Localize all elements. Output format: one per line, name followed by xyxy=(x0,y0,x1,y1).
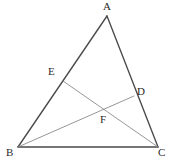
geometry-canvas xyxy=(0,0,169,161)
triangle-sides xyxy=(18,16,158,147)
vertex-label-B: B xyxy=(6,147,13,158)
vertex-label-D: D xyxy=(137,86,145,97)
vertex-label-C: C xyxy=(158,147,165,158)
geometry-figure: A B C D E F xyxy=(0,0,169,161)
vertex-label-E: E xyxy=(48,66,55,77)
vertex-label-A: A xyxy=(103,1,111,12)
vertex-label-F: F xyxy=(100,114,106,125)
side-AC xyxy=(107,16,158,147)
